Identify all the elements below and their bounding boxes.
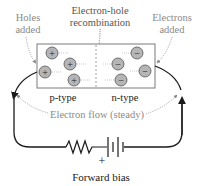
recombination-label: Electron-hole recombination bbox=[70, 5, 131, 28]
left-wire-arrow bbox=[14, 72, 37, 96]
svg-text:+: + bbox=[42, 67, 48, 78]
p-type-label: p-type bbox=[50, 92, 77, 103]
right-wire-top bbox=[155, 66, 181, 90]
electron-flow-label: Electron flow (steady) bbox=[50, 109, 144, 121]
left-wire bbox=[14, 96, 66, 147]
svg-text:+: + bbox=[67, 59, 73, 70]
forward-bias-label: Forward bias bbox=[72, 171, 130, 183]
svg-text:+: + bbox=[49, 48, 55, 59]
svg-text:−: − bbox=[134, 48, 140, 59]
n-type-label: n-type bbox=[112, 92, 139, 103]
svg-text:+: + bbox=[71, 75, 77, 86]
battery-icon bbox=[108, 137, 123, 157]
right-wire bbox=[124, 100, 182, 147]
svg-text:−: − bbox=[115, 59, 121, 70]
svg-text:−: − bbox=[118, 75, 124, 86]
recombination-line1: Electron-hole bbox=[71, 5, 128, 16]
recombination-line2: recombination bbox=[70, 17, 131, 28]
electron-flow-right-pointer bbox=[146, 96, 176, 114]
positive-terminal-label: + bbox=[99, 154, 106, 168]
electrons-pointer bbox=[158, 37, 172, 62]
electron-flow-left-pointer bbox=[18, 96, 48, 113]
electrons-added-line2: added bbox=[159, 24, 185, 35]
holes-added-line1: Holes bbox=[16, 12, 41, 23]
holes-pointer bbox=[26, 37, 35, 62]
svg-text:−: − bbox=[142, 66, 148, 77]
electrons-added-line1: Electrons bbox=[152, 12, 192, 23]
holes-added-line2: added bbox=[15, 24, 41, 35]
resistor-icon bbox=[66, 141, 107, 153]
holes-added-label: Holes added bbox=[15, 12, 41, 35]
pn-junction-diagram: Holes added Electron-hole recombination … bbox=[0, 0, 199, 186]
electrons-added-label: Electrons added bbox=[152, 12, 192, 35]
